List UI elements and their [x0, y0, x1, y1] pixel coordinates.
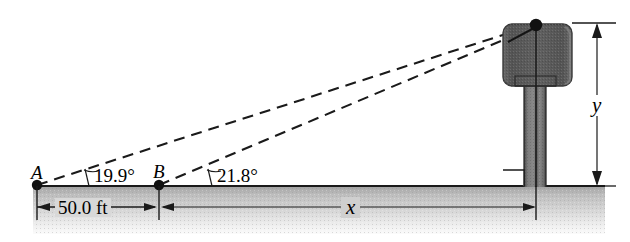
tower-tank — [503, 24, 572, 86]
sight-line-from-a — [37, 25, 534, 185]
angle-label-b: 21.8° — [217, 166, 258, 185]
point-label-b: B — [153, 162, 165, 181]
sight-line-from-b — [159, 27, 534, 185]
tower-apex-point — [530, 19, 542, 31]
dimension-label-y: y — [589, 95, 604, 116]
dimension-label-baseline: 50.0 ft — [55, 198, 111, 217]
angle-label-a: 19.9° — [94, 166, 135, 185]
dimension-label-x: x — [341, 197, 360, 218]
trig-diagram-figure: A B 19.9° 21.8° 50.0 ft x y — [0, 0, 630, 242]
right-angle-marker — [503, 170, 524, 186]
tower-column — [524, 80, 546, 187]
point-label-a: A — [31, 163, 43, 182]
ground-band — [33, 186, 605, 234]
